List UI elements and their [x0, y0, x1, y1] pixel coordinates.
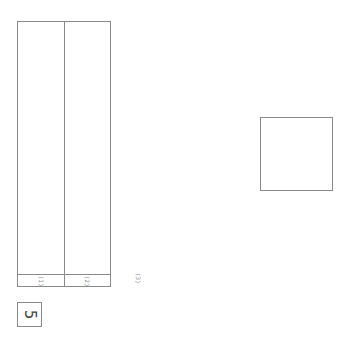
answer-column-label-1: (1) [18, 275, 64, 287]
answer-column-label-2: (2) [64, 275, 110, 287]
label-text: (1) [38, 276, 45, 286]
answer-table: (1) (2) [17, 21, 111, 287]
label-text: (3) [135, 273, 142, 283]
question-number: 5 [22, 310, 37, 320]
label-text: (2) [84, 276, 91, 286]
answer-box-3 [260, 117, 333, 191]
answer-label-3: (3) [128, 272, 148, 284]
column-divider [64, 22, 65, 286]
question-number-box: 5 [17, 302, 42, 327]
